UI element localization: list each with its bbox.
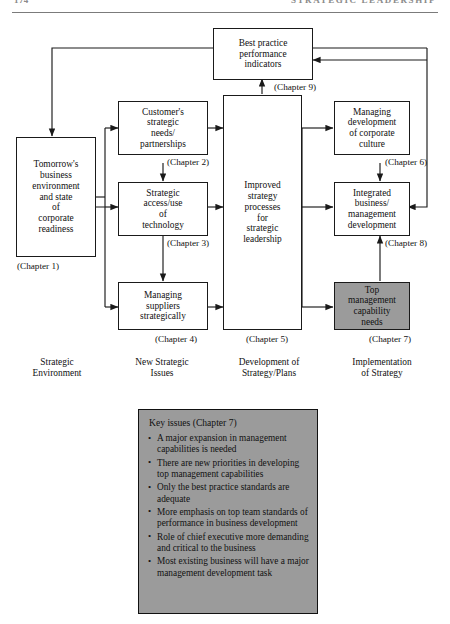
box-improved-strategy-processes[interactable]: Improved strategy processes for strategi… xyxy=(223,95,302,330)
column-label-development-strategy-plans: Development of Strategy/Plans xyxy=(216,357,322,379)
chapter-ref-integrated: (Chapter 8) xyxy=(385,238,427,248)
chapter-ref-best-practice: (Chapter 9) xyxy=(274,82,316,92)
chapter-ref-topmgmt: (Chapter 7) xyxy=(369,334,411,344)
box-integrated-business-management[interactable]: Integrated business/ management developm… xyxy=(334,182,410,236)
page-folio: 174 xyxy=(14,0,29,5)
chapter-ref-tomorrow: (Chapter 1) xyxy=(17,261,59,271)
box-best-practice[interactable]: Best practice performance indicators xyxy=(213,28,313,80)
box-culture-label: Managing development of corporate cultur… xyxy=(348,107,396,150)
chapter-ref-customers: (Chapter 2) xyxy=(167,157,209,167)
key-issues-panel[interactable]: Key issues (Chapter 7) A major expansion… xyxy=(138,409,318,614)
book-page: 174 STRATEGIC LEADERSHIP xyxy=(0,0,450,624)
box-technology-label: Strategic access/use of technology xyxy=(142,188,184,231)
list-item: More emphasis on top team standards of p… xyxy=(148,507,309,530)
chapter-ref-technology: (Chapter 3) xyxy=(167,238,209,248)
box-suppliers-label: Managing suppliers strategically xyxy=(140,290,186,322)
column-label-strategic-environment: Strategic Environment xyxy=(16,357,98,379)
key-issues-title: Key issues (Chapter 7) xyxy=(149,417,309,428)
running-head-title: STRATEGIC LEADERSHIP xyxy=(291,0,436,5)
chapter-ref-improved: (Chapter 5) xyxy=(246,334,288,344)
list-item: There are new priorities in developing t… xyxy=(148,458,309,481)
box-best-practice-label: Best practice performance indicators xyxy=(239,38,288,70)
column-label-implementation-strategy: Implementation of Strategy xyxy=(330,357,434,379)
box-strategic-access-technology[interactable]: Strategic access/use of technology xyxy=(118,182,208,236)
list-item: Most existing business will have a major… xyxy=(148,556,309,579)
box-improved-label: Improved strategy processes for strategi… xyxy=(243,180,282,244)
box-managing-corporate-culture[interactable]: Managing development of corporate cultur… xyxy=(334,101,410,155)
box-tomorrow-label: Tomorrow's business environment and stat… xyxy=(32,159,79,234)
box-topmgmt-label: Top management capability needs xyxy=(348,285,396,328)
list-item: Role of chief executive more demanding a… xyxy=(148,532,309,555)
box-top-management-capability[interactable]: Top management capability needs xyxy=(334,282,410,330)
list-item: Only the best practice standards are ade… xyxy=(148,482,309,505)
box-managing-suppliers[interactable]: Managing suppliers strategically xyxy=(118,282,208,330)
chapter-ref-suppliers: (Chapter 4) xyxy=(155,334,197,344)
column-label-new-strategic-issues: New Strategic Issues xyxy=(113,357,211,379)
box-customer-strategic-needs[interactable]: Customer's strategic needs/ partnerships xyxy=(118,101,208,155)
list-item: A major expansion in management capabili… xyxy=(148,433,309,456)
box-integrated-label: Integrated business/ management developm… xyxy=(348,188,396,231)
box-tomorrow-business-environment[interactable]: Tomorrow's business environment and stat… xyxy=(16,137,96,257)
chapter-ref-culture: (Chapter 6) xyxy=(385,157,427,167)
key-issues-list: A major expansion in management capabili… xyxy=(148,433,309,579)
box-customers-label: Customer's strategic needs/ partnerships xyxy=(140,107,186,150)
header-rule xyxy=(12,12,438,13)
